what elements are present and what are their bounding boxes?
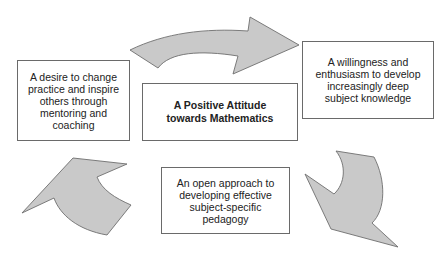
- node-mentoring-text: A desire to change practice and inspire …: [28, 71, 119, 131]
- cycle-diagram: A desire to change practice and inspire …: [0, 0, 445, 255]
- text-line: subject knowledge: [315, 92, 420, 104]
- left-curved-arrow-icon: [22, 158, 131, 235]
- text-line: subject-specific: [177, 201, 275, 213]
- top-curved-arrow-icon: [130, 17, 299, 74]
- center-title-line: towards Mathematics: [167, 112, 274, 125]
- text-line: A desire to change: [28, 71, 119, 83]
- node-pedagogy: An open approach to developing effective…: [161, 167, 290, 234]
- text-line: pedagogy: [177, 213, 275, 225]
- center-title-line: A Positive Attitude: [167, 99, 274, 112]
- node-mentoring: A desire to change practice and inspire …: [17, 60, 130, 141]
- node-subject-knowledge-text: A willingness and enthusiasm to develop …: [315, 56, 420, 104]
- text-line: mentoring and: [28, 107, 119, 119]
- text-line: increasingly deep: [315, 80, 420, 92]
- text-line: practice and inspire: [28, 83, 119, 95]
- center-node: A Positive Attitude towards Mathematics: [142, 83, 298, 141]
- text-line: A willingness and: [315, 56, 420, 68]
- text-line: enthusiasm to develop: [315, 68, 420, 80]
- center-node-text: A Positive Attitude towards Mathematics: [167, 99, 274, 125]
- text-line: others through: [28, 95, 119, 107]
- right-curved-arrow-icon: [305, 151, 398, 247]
- node-pedagogy-text: An open approach to developing effective…: [177, 177, 275, 225]
- text-line: developing effective: [177, 189, 275, 201]
- text-line: coaching: [28, 119, 119, 131]
- node-subject-knowledge: A willingness and enthusiasm to develop …: [302, 41, 434, 119]
- text-line: An open approach to: [177, 177, 275, 189]
